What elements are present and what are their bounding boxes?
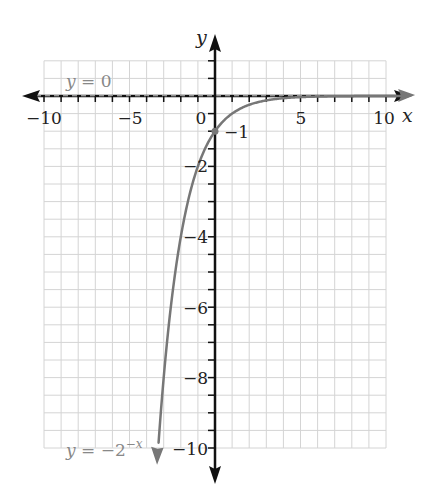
y-tick-label-neg4: −4 — [183, 227, 208, 247]
y-tick-label-neg6: −6 — [183, 298, 208, 318]
x-tick-label-5: 5 — [296, 108, 307, 128]
x-tick-label-10: 10 — [373, 108, 395, 128]
x-axis-label: x — [402, 104, 413, 126]
exponential-graph: x y −10 −5 0 5 10 −1 −2 −4 −6 −8 −10 y =… — [0, 0, 429, 495]
asymptote-equation-label: y = 0 — [65, 71, 111, 91]
y-tick-label-neg1: −1 — [224, 122, 249, 142]
x-tick-label-0: 0 — [196, 108, 207, 128]
axes — [22, 34, 412, 484]
x-tick-label-neg5: −5 — [117, 108, 142, 128]
y-tick-label-neg8: −8 — [183, 368, 208, 388]
y-tick-label-neg2: −2 — [183, 156, 208, 176]
y-axis-label: y — [195, 26, 207, 48]
x-tick-label-neg10: −10 — [26, 108, 62, 128]
curve-equation-label: y = −2−x — [65, 437, 143, 460]
curve-down-arrow-icon — [151, 447, 164, 465]
y-tick-label-neg10: −10 — [172, 439, 208, 459]
y-intercept-point — [212, 128, 219, 135]
curve-line — [159, 96, 403, 443]
